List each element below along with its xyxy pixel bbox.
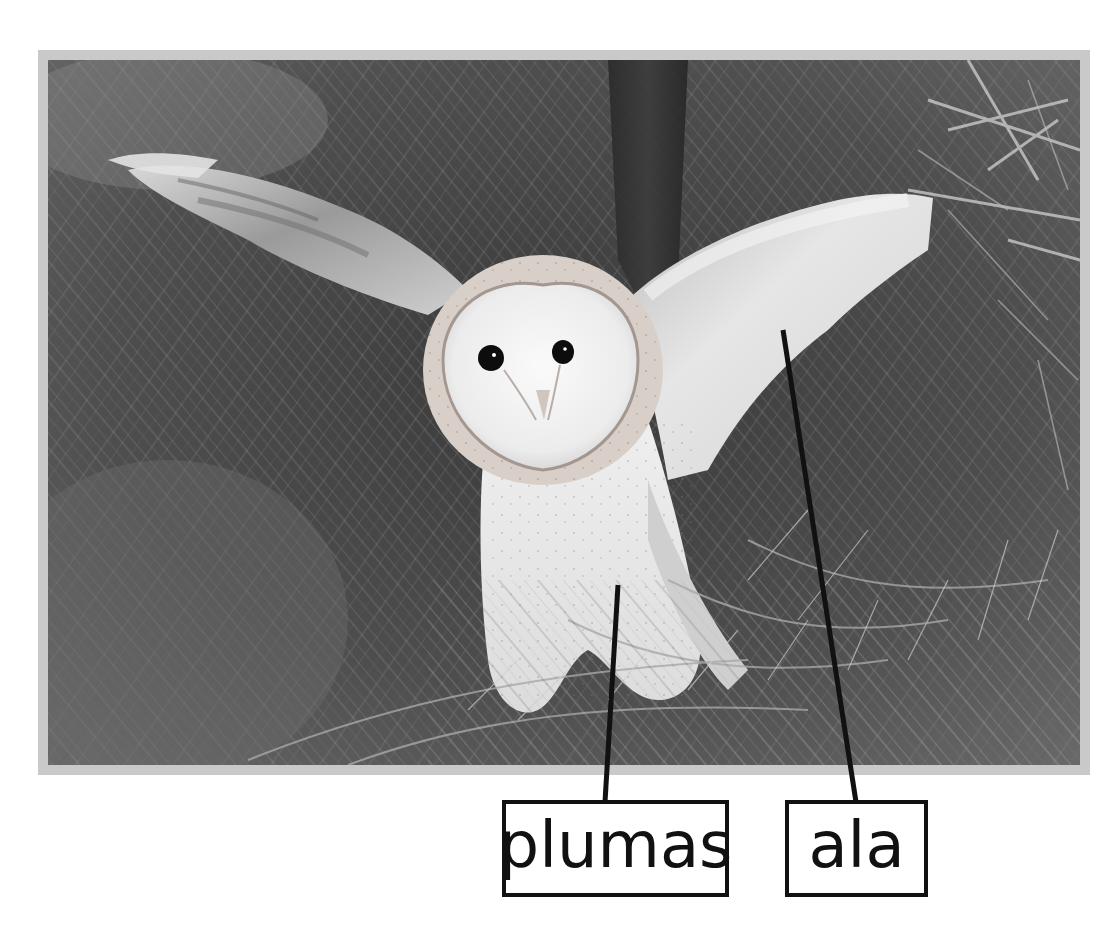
label-ala: ala xyxy=(785,800,928,897)
label-plumas-text: plumas xyxy=(499,813,733,877)
label-ala-text: ala xyxy=(808,813,904,877)
owl-photo xyxy=(48,60,1080,765)
label-plumas: plumas xyxy=(502,800,729,897)
owl-illustration xyxy=(48,60,1080,765)
